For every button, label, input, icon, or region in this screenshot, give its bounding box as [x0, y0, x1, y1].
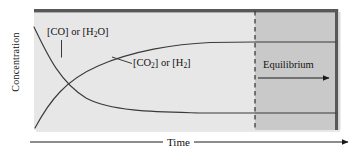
products-series-label: [CO2] or [H2] — [133, 58, 191, 69]
reactants-label-tail: O] — [97, 26, 108, 37]
equilibrium-region-label: Equilibrium — [263, 60, 314, 71]
reactants-label-text: [CO] or [H — [47, 26, 94, 37]
plot-right-border — [335, 9, 338, 130]
y-axis-label: Concentration — [11, 17, 21, 107]
products-label-mid: ] or [H — [155, 57, 184, 68]
plot-top-border — [34, 9, 338, 12]
plot-shadow-right — [338, 12, 341, 130]
graph-canvas — [0, 0, 356, 156]
x-axis-label: Time — [163, 137, 194, 148]
equilibrium-region — [255, 12, 338, 130]
plot-shadow-bottom — [36, 130, 340, 132]
reactants-series-label: [CO] or [H2O] — [47, 27, 108, 38]
equilibrium-graph-figure: Concentration Time [CO] or [H2O] [CO2] o… — [0, 0, 356, 156]
products-label-text: [CO — [133, 57, 151, 68]
products-label-tail: ] — [187, 57, 191, 68]
